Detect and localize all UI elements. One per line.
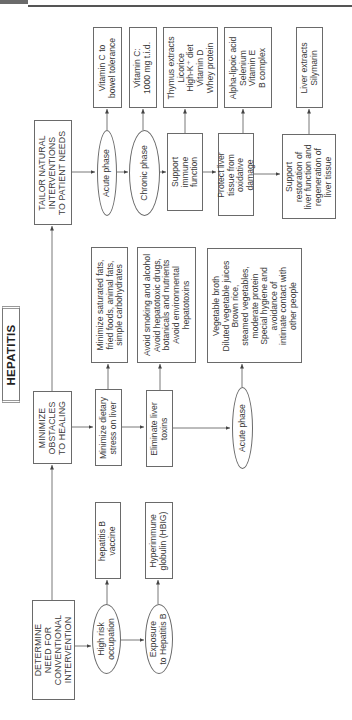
minimize-dietary-box: Minimize dietary stress on liver: [95, 389, 122, 466]
support-immune-box: Support immune function: [167, 133, 203, 211]
vitamin-c-bowel-label: Vitamin C to bowel tolerance: [98, 37, 117, 97]
saturated-fats-box: Minimize saturated fats, fried foods, an…: [91, 247, 128, 363]
thymus-box: Thymus extracts Licorice High-K⁺ diet Vi…: [163, 27, 218, 108]
diagram-title: HEPATITIS: [5, 324, 18, 385]
avoid-smoking-box: Avoid smoking and alcohol Avoid hepatoto…: [137, 247, 196, 363]
minimize-dietary-label: Minimize dietary stress on liver: [99, 396, 118, 458]
tailor-heading-box: TAILOR NATURAL INTERVENTIONS TO PATIENT …: [34, 120, 72, 225]
liver-extracts-label: Liver extracts Silymarin: [300, 42, 319, 93]
acute-phase-upper-label: Acute phase: [102, 149, 112, 197]
protect-liver-box: Protect liver tissue from oxidative dama…: [218, 133, 254, 216]
vitamin-c-bowel-box: Vitamin C to bowel tolerance: [93, 27, 122, 108]
support-immune-label: Support immune function: [171, 157, 200, 188]
exposure-ellipse: Exposure to Hepatitis B: [145, 604, 173, 674]
liver-extracts-box: Liver extracts Silymarin: [296, 27, 323, 108]
vegetable-broth-box: Vegetable broth Diluted vegetable juices…: [207, 248, 302, 363]
minimize-heading-box: MINIMIZE OBSTACLES TO HEALING: [33, 391, 72, 464]
hbig-box: Hyperimmune globulin (HBIG): [145, 502, 173, 579]
acute-phase-lower-ellipse: Acute phase: [232, 387, 253, 469]
vegetable-broth-label: Vegetable broth Diluted vegetable juices…: [211, 260, 298, 351]
support-restoration-label: Support restoration of liver function an…: [285, 144, 333, 209]
determine-heading: DETERMINE NEED FOR CONVENTIONAL INTERVEN…: [34, 615, 73, 686]
high-risk-label: High risk occupation: [97, 618, 116, 660]
exposure-label: Exposure to Hepatitis B: [149, 613, 168, 664]
protect-liver-label: Protect liver tissue from oxidative dama…: [217, 152, 256, 197]
thymus-label: Thymus extracts Licorice High-K⁺ diet Vi…: [166, 36, 214, 99]
tailor-heading: TAILOR NATURAL INTERVENTIONS TO PATIENT …: [38, 130, 68, 215]
hepatitis-b-vaccine-label: hepatitis B vaccine: [98, 520, 117, 560]
chronic-phase-ellipse: Chronic phase: [129, 130, 160, 216]
diagram-title-banner: HEPATITIS: [2, 306, 20, 403]
chronic-phase-label: Chronic phase: [140, 145, 150, 200]
minimize-heading: MINIMIZE OBSTACLES TO HEALING: [38, 400, 68, 454]
alpha-lipoic-box: Alpha-lipoic acid Selenium Vitamin E B c…: [224, 27, 272, 108]
acute-phase-upper-ellipse: Acute phase: [97, 130, 117, 216]
alpha-lipoic-label: Alpha-lipoic acid Selenium Vitamin E B c…: [229, 36, 268, 99]
eliminate-toxins-box: Eliminate liver toxins: [146, 390, 173, 467]
vitamin-c-1000-label: Vitamin C: 1000 mg t.i.d.: [133, 41, 152, 93]
acute-phase-lower-label: Acute phase: [238, 404, 248, 452]
eliminate-toxins-label: Eliminate liver toxins: [150, 402, 169, 456]
hepatitis-b-vaccine-box: hepatitis B vaccine: [95, 502, 121, 579]
determine-heading-box: DETERMINE NEED FOR CONVENTIONAL INTERVEN…: [32, 600, 75, 700]
vitamin-c-1000-box: Vitamin C: 1000 mg t.i.d.: [129, 27, 157, 108]
support-restoration-box: Support restoration of liver function an…: [282, 134, 336, 219]
hbig-label: Hyperimmune globulin (HBIG): [149, 511, 168, 570]
saturated-fats-label: Minimize saturated fats, fried foods, an…: [95, 260, 124, 351]
high-risk-ellipse: High risk occupation: [92, 604, 121, 674]
avoid-smoking-label: Avoid smoking and alcohol Avoid hepatoto…: [142, 254, 190, 356]
